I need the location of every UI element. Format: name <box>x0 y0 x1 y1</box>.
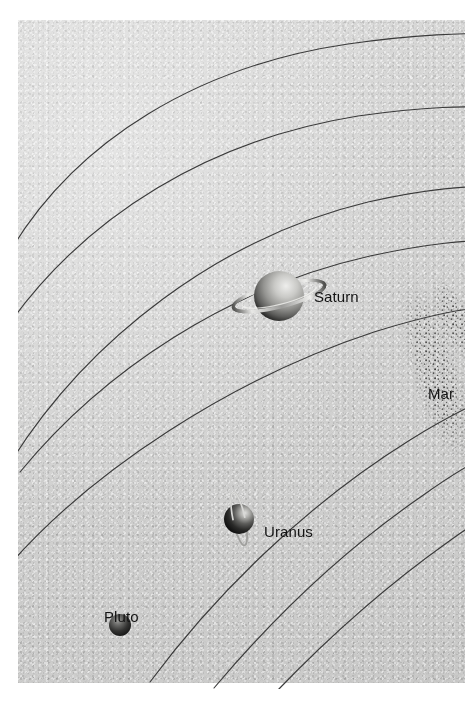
label-uranus: Uranus <box>264 524 313 539</box>
page-margin-top <box>0 0 465 20</box>
planet-saturn <box>231 271 328 321</box>
label-saturn: Saturn <box>314 289 359 304</box>
figure-page: Saturn Uranus Pluto Mar <box>0 0 465 705</box>
orbit-scene <box>18 20 465 683</box>
page-margin-left <box>0 0 18 705</box>
uranus-body <box>224 504 254 534</box>
saturn-body <box>254 271 304 321</box>
asteroid-belt <box>388 260 465 490</box>
planet-uranus <box>224 491 254 546</box>
label-pluto: Pluto <box>104 609 139 624</box>
orbit-outermost-pluto <box>12 34 465 248</box>
page-margin-bottom <box>0 689 465 705</box>
orbit-earth <box>276 515 465 692</box>
label-mars: Mar <box>428 386 454 401</box>
illustration-plate: Saturn Uranus Pluto Mar <box>18 20 465 683</box>
